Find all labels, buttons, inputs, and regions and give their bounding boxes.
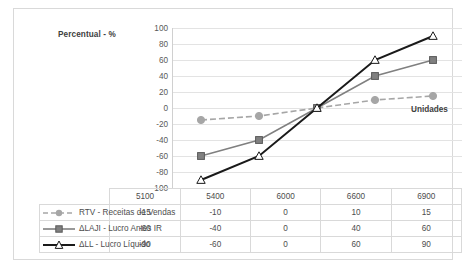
- y-axis-tick-label: 100: [154, 24, 168, 33]
- table-cell: 40: [321, 221, 391, 237]
- data-table: 51005400600066006900 RTV - Receitas de V…: [39, 188, 462, 253]
- legend-swatch-icon: [42, 223, 76, 235]
- legend-swatch-icon: [42, 239, 76, 251]
- data-point-marker: [430, 57, 437, 64]
- data-point-marker: [429, 32, 437, 40]
- y-axis-tick-label: -40: [156, 136, 168, 145]
- data-point-marker: [198, 153, 205, 160]
- y-axis-title: Percentual - %: [58, 30, 116, 39]
- table-cell: 60: [321, 237, 391, 253]
- table-row: RTV - Receitas de Vendas-15-1001015: [40, 205, 462, 221]
- table-cell: 0: [250, 205, 320, 221]
- table-row: ΔLL - Lucro Líquido-90-6006090: [40, 237, 462, 253]
- table-column-header: 6900: [391, 189, 461, 205]
- table-cell: -60: [180, 237, 250, 253]
- y-axis-tick-label: 80: [159, 40, 168, 49]
- table-cell: 90: [391, 237, 461, 253]
- data-point-marker: [372, 73, 379, 80]
- table-cell: 10: [321, 205, 391, 221]
- data-point-marker: [255, 112, 262, 119]
- table-cell: 60: [391, 221, 461, 237]
- table-column-header: 5100: [110, 189, 180, 205]
- data-point-marker: [256, 137, 263, 144]
- y-axis-tick-label: 40: [159, 72, 168, 81]
- y-axis-tick-label: -80: [156, 168, 168, 177]
- table-column-header: 6000: [250, 189, 320, 205]
- data-point-marker: [371, 96, 378, 103]
- legend-entry-label: RTV - Receitas de Vendas: [79, 208, 175, 217]
- y-axis-tick-label: -60: [156, 152, 168, 161]
- table-cell: 0: [250, 237, 320, 253]
- legend-entry[interactable]: ΔLL - Lucro Líquido: [40, 237, 110, 253]
- table-corner-cell: [40, 189, 110, 205]
- table-header-row: 51005400600066006900: [40, 189, 462, 205]
- legend-entry[interactable]: ΔLAJI - Lucro Antes IR: [40, 221, 110, 237]
- chart-frame: Percentual - % 100806040200-20-40-60-80-…: [13, 8, 453, 260]
- y-axis-tick-label: 60: [159, 56, 168, 65]
- table-body: RTV - Receitas de Vendas-15-1001015ΔLAJI…: [40, 205, 462, 253]
- y-axis-tick-label: 20: [159, 88, 168, 97]
- data-point-marker: [429, 92, 436, 99]
- table-cell: 15: [391, 205, 461, 221]
- y-axis-tick-labels: 100806040200-20-40-60-80-100: [136, 28, 168, 188]
- table-cell: 0: [250, 221, 320, 237]
- data-point-marker: [197, 116, 204, 123]
- legend-marker-icon: [56, 209, 62, 215]
- x-axis-title: Unidades: [411, 105, 448, 114]
- table-column-header: 6600: [321, 189, 391, 205]
- table-cell: -10: [180, 205, 250, 221]
- table-cell: -40: [180, 221, 250, 237]
- legend-marker-icon: [56, 225, 62, 231]
- legend-swatch-icon: [42, 207, 76, 219]
- y-axis-tick-label: 0: [163, 104, 168, 113]
- y-axis-tick-label: -20: [156, 120, 168, 129]
- table-row: ΔLAJI - Lucro Antes IR-60-4004060: [40, 221, 462, 237]
- table-column-header: 5400: [180, 189, 250, 205]
- legend-entry[interactable]: RTV - Receitas de Vendas: [40, 205, 110, 221]
